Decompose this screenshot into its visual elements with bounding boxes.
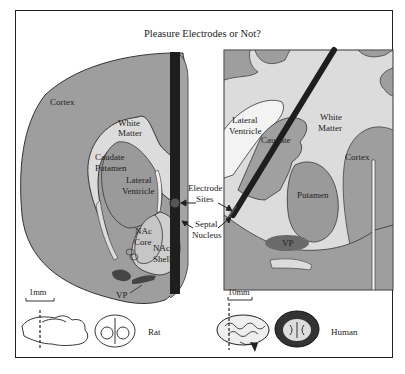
rat-label-nac-core-2: Core xyxy=(134,237,152,247)
human-scale-label: 10mm xyxy=(228,287,250,297)
rat-label-lateral-1: Lateral xyxy=(126,175,151,185)
rat-label-lateral-2: Ventricle xyxy=(122,186,154,196)
rat-brain-section xyxy=(21,52,188,304)
human-label-putamen: Putamen xyxy=(297,190,329,200)
label-septal-2: Nucleus xyxy=(192,230,222,240)
rat-label-nac-shell-1: NAc xyxy=(153,243,170,253)
rat-label-caudate-2: Putamen xyxy=(95,163,127,173)
human-label-caudate: Caudate xyxy=(261,135,291,145)
human-label-white-2: Matter xyxy=(318,123,342,133)
rat-label-caudate-1: Caudate xyxy=(95,152,125,162)
rat-label-white-matter-2: Matter xyxy=(118,128,142,138)
human-label-vp: VP xyxy=(282,238,294,248)
human-label-white-1: White xyxy=(320,112,342,122)
rat-thumbnails xyxy=(22,310,135,350)
rat-label-nac-core-1: NAc xyxy=(135,226,152,236)
label-electrode-2: Sites xyxy=(196,194,214,204)
rat-label-nac-shell-2: Shell xyxy=(153,254,172,264)
human-thumbnails xyxy=(217,303,319,352)
rat-electrode-tip xyxy=(170,198,180,208)
rat-species-label: Rat xyxy=(148,327,161,337)
label-electrode-1: Electrode xyxy=(188,183,222,193)
label-septal-1: Septal xyxy=(195,219,218,229)
rat-label-cortex: Cortex xyxy=(50,97,75,107)
human-brain-section xyxy=(224,50,393,300)
human-label-lateral-2: Ventricle xyxy=(229,126,261,136)
rat-label-vp: VP xyxy=(116,290,128,300)
human-species-label: Human xyxy=(331,327,358,337)
human-label-lateral-1: Lateral xyxy=(232,115,257,125)
human-label-cortex: Cortex xyxy=(345,152,370,162)
rat-label-white-matter-1: White xyxy=(118,118,140,128)
rat-scale-label: 1mm xyxy=(29,287,46,297)
